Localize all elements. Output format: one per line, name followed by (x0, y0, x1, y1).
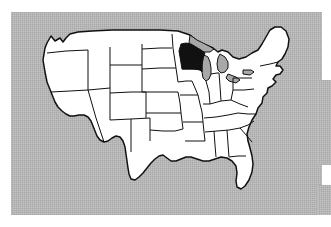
figure-page (0, 0, 331, 227)
us-landmass-outline (43, 27, 289, 189)
us-map (0, 0, 331, 227)
